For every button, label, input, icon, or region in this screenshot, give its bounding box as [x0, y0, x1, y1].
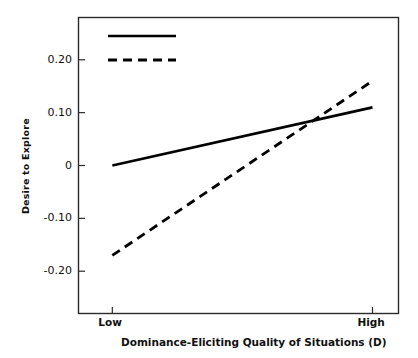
plot-area [0, 0, 418, 358]
plot-frame [79, 18, 399, 314]
chart-figure: Desire to Explore 0.20 0.10 0 -0.10 -0.2… [0, 0, 418, 358]
